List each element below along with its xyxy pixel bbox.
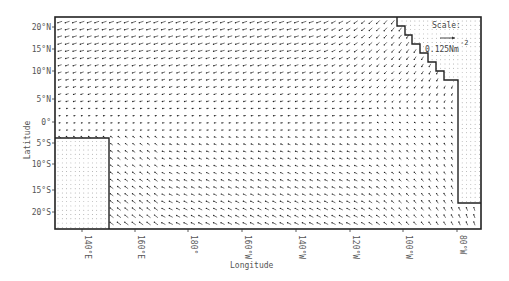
vector-head-icon: [125, 87, 126, 88]
land-dot: [92, 175, 93, 176]
vector-head-icon: [258, 79, 259, 80]
land-dot: [453, 68, 454, 69]
vector-head-icon: [436, 87, 437, 88]
vector-head-icon: [161, 58, 162, 59]
land-dot: [75, 175, 76, 176]
vector-head-icon: [191, 151, 192, 152]
land-dot: [79, 197, 80, 198]
vector-head-icon: [250, 172, 251, 173]
vector-head-icon: [199, 108, 200, 109]
vector-head-icon: [265, 29, 266, 30]
land-dot: [475, 150, 476, 151]
land-dot: [475, 188, 476, 189]
vector-head-icon: [57, 22, 58, 23]
vector-head-icon: [169, 215, 170, 216]
land-dot: [66, 218, 67, 219]
vector-head-icon: [376, 193, 377, 194]
x-tick-label: 80°W: [458, 235, 467, 254]
vector-head-icon: [258, 143, 259, 144]
vector-head-icon: [133, 115, 134, 116]
vector-head-icon: [332, 108, 333, 109]
land-dot: [79, 150, 80, 151]
land-dot: [475, 68, 476, 69]
vector-head-icon: [198, 29, 199, 30]
vector-head-icon: [154, 29, 155, 30]
vector-head-icon: [176, 215, 177, 216]
land-dot: [79, 162, 80, 163]
vector-head-icon: [287, 44, 288, 45]
vector-head-icon: [406, 186, 407, 187]
vector-head-icon: [102, 36, 103, 37]
vector-head-icon: [146, 222, 147, 223]
land-dot: [79, 227, 80, 228]
land-dot: [410, 25, 411, 26]
vector-head-icon: [309, 186, 310, 187]
land-dot: [466, 124, 467, 125]
vector-head-icon: [191, 179, 192, 180]
vector-head-icon: [169, 158, 170, 159]
vector-head-icon: [339, 172, 340, 173]
land-dot: [101, 162, 102, 163]
land-dot: [479, 89, 480, 90]
vector-head-icon: [228, 201, 229, 202]
vector-head-icon: [176, 208, 177, 209]
vector-head-icon: [332, 179, 333, 180]
vector-head-icon: [235, 51, 236, 52]
vector-head-icon: [139, 186, 140, 187]
vector-head-icon: [221, 186, 222, 187]
land-dot: [479, 21, 480, 22]
land-dot: [470, 184, 471, 185]
vector-head-icon: [399, 136, 400, 137]
vector-head-icon: [221, 108, 222, 109]
vector-head-icon: [117, 172, 118, 173]
land-dot: [423, 21, 424, 22]
land-dot: [105, 188, 106, 189]
y-tick-label: 5°S: [37, 139, 52, 148]
vector-head-icon: [406, 52, 407, 53]
vector-head-icon: [177, 122, 178, 123]
vector-head-icon: [154, 157, 155, 158]
vector-head-icon: [287, 208, 288, 209]
land-dot: [470, 180, 471, 181]
vector-head-icon: [139, 72, 140, 73]
vector-head-icon: [346, 201, 347, 202]
vector-head-icon: [220, 22, 221, 23]
vector-head-icon: [169, 179, 170, 180]
vector-head-icon: [192, 115, 193, 116]
land-dot: [462, 33, 463, 34]
vector-head-icon: [354, 44, 355, 45]
land-dot: [462, 72, 463, 73]
land-dot: [475, 21, 476, 22]
land-dot: [462, 25, 463, 26]
land-dot: [453, 76, 454, 77]
vector-head-icon: [287, 22, 288, 23]
vector-head-icon: [177, 94, 178, 95]
land-dot: [457, 33, 458, 34]
vector-head-icon: [243, 143, 244, 144]
vector-head-icon: [243, 201, 244, 202]
vector-head-icon: [214, 94, 215, 95]
vector-head-icon: [243, 108, 244, 109]
land-dot: [88, 193, 89, 194]
vector-head-icon: [309, 193, 310, 194]
vector-head-icon: [346, 222, 347, 223]
vector-head-icon: [154, 186, 155, 187]
land-dot: [79, 158, 80, 159]
vector-head-icon: [110, 87, 111, 88]
vector-head-icon: [213, 79, 214, 80]
vector-head-icon: [176, 179, 177, 180]
land-dot: [75, 184, 76, 185]
vector-head-icon: [295, 172, 296, 173]
vector-head-icon: [154, 87, 155, 88]
vector-head-icon: [169, 193, 170, 194]
vector-head-icon: [221, 151, 222, 152]
vector-head-icon: [272, 222, 273, 223]
vector-head-icon: [265, 208, 266, 209]
vector-head-icon: [257, 22, 258, 23]
vector-head-icon: [139, 44, 140, 45]
vector-head-icon: [302, 51, 303, 52]
land-dot: [462, 124, 463, 125]
vector-head-icon: [110, 115, 111, 116]
vector-head-icon: [184, 179, 185, 180]
vector-head-icon: [162, 94, 163, 95]
